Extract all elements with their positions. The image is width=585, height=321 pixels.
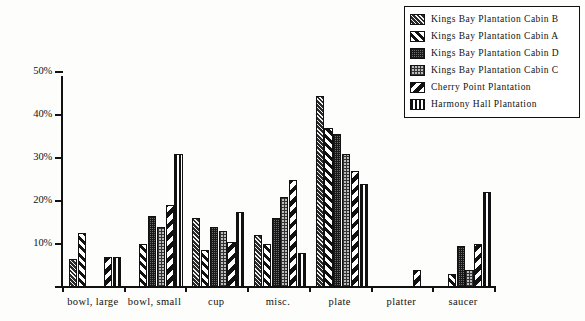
bar xyxy=(280,197,288,287)
x-axis-category-label: plate xyxy=(309,296,371,307)
x-axis-category-label: bowl, large xyxy=(62,296,124,307)
x-axis-category-label: platter xyxy=(371,296,433,307)
bar xyxy=(413,270,421,287)
x-axis-tick xyxy=(124,286,126,292)
y-axis-tick-label: 50% xyxy=(16,66,52,76)
bar xyxy=(69,259,77,287)
bar xyxy=(174,154,182,287)
legend-item[interactable]: Cherry Point Plantation xyxy=(410,79,574,96)
legend-label: Kings Bay Plantation Cabin D xyxy=(431,48,559,59)
x-axis-tick xyxy=(371,286,373,292)
y-axis-tick-label: 30% xyxy=(16,152,52,162)
legend-swatch-icon xyxy=(410,48,425,59)
bar xyxy=(316,96,324,287)
bar xyxy=(448,274,456,287)
bar xyxy=(333,134,341,287)
x-axis-tick xyxy=(432,286,434,292)
x-axis-tick xyxy=(247,286,249,292)
legend-item[interactable]: Kings Bay Plantation Cabin C xyxy=(410,62,574,79)
x-axis-category-label: bowl, small xyxy=(124,296,186,307)
y-axis-tick-label: 20% xyxy=(16,195,52,205)
legend-swatch-icon xyxy=(410,31,425,42)
bar xyxy=(272,218,280,287)
bar xyxy=(139,244,147,287)
bar xyxy=(483,192,491,287)
legend-label: Cherry Point Plantation xyxy=(431,82,531,93)
bar xyxy=(351,171,359,287)
bar xyxy=(342,154,350,287)
legend-item[interactable]: Kings Bay Plantation Cabin B xyxy=(410,11,574,28)
bar xyxy=(148,216,156,287)
bar xyxy=(227,242,235,287)
legend-swatch-icon xyxy=(410,65,425,76)
legend-swatch-icon xyxy=(410,82,425,93)
legend-label: Kings Bay Plantation Cabin B xyxy=(431,14,559,25)
x-axis-tick xyxy=(309,286,311,292)
bar xyxy=(457,246,465,287)
legend-label: Kings Bay Plantation Cabin C xyxy=(431,65,559,76)
bar xyxy=(254,235,262,287)
x-axis-category-label: cup xyxy=(185,296,247,307)
x-axis-tick xyxy=(185,286,187,292)
x-axis-tick xyxy=(62,286,64,292)
bar xyxy=(166,205,174,287)
bar xyxy=(113,257,121,287)
legend-label: Kings Bay Plantation Cabin A xyxy=(431,31,559,42)
bar xyxy=(465,270,473,287)
legend-item[interactable]: Kings Bay Plantation Cabin D xyxy=(410,45,574,62)
x-axis-category-label: misc. xyxy=(247,296,309,307)
bar-chart: 10%20%30%40%50% bowl, largebowl, smallcu… xyxy=(0,0,585,321)
legend-item[interactable]: Harmony Hall Plantation xyxy=(410,96,574,113)
legend-item[interactable]: Kings Bay Plantation Cabin A xyxy=(410,28,574,45)
bar xyxy=(192,218,200,287)
bar xyxy=(219,231,227,287)
bar xyxy=(210,227,218,287)
legend-swatch-icon xyxy=(410,99,425,110)
legend-label: Harmony Hall Plantation xyxy=(431,99,537,110)
y-axis-tick-label: 10% xyxy=(16,238,52,248)
bar xyxy=(324,128,332,287)
y-axis-tick-label: 40% xyxy=(16,109,52,119)
bar xyxy=(298,253,306,287)
bar xyxy=(201,250,209,287)
bar xyxy=(360,184,368,287)
bar xyxy=(289,180,297,288)
legend-swatch-icon xyxy=(410,14,425,25)
bar xyxy=(474,244,482,287)
legend: Kings Bay Plantation Cabin B Kings Bay P… xyxy=(404,6,580,118)
bar xyxy=(78,233,86,287)
bar xyxy=(263,244,271,287)
bar xyxy=(104,257,112,287)
x-axis-tick xyxy=(494,286,496,292)
x-axis-category-label: saucer xyxy=(432,296,494,307)
bar xyxy=(157,227,165,287)
bar xyxy=(236,212,244,287)
